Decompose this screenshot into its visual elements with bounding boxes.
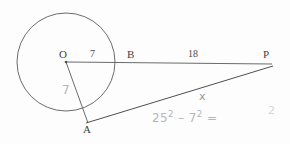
geometry-diagram-canvas: O B P A 7 18 7 x 252 – 72 = 2 (0, 0, 290, 144)
equation-equals: = (203, 111, 218, 125)
equation-base-2: 7 (189, 111, 197, 125)
point-label-o: O (59, 49, 67, 60)
point-o-dot (65, 61, 68, 64)
handwritten-equation: 252 – 72 = (152, 110, 217, 124)
stray-digit-mark: 2 (268, 105, 275, 116)
segment-label-bp: 18 (188, 49, 198, 59)
equation-base-1: 25 (152, 111, 168, 125)
point-label-a: A (83, 124, 91, 135)
segment-label-ob: 7 (90, 49, 95, 59)
segment-op-line (66, 62, 272, 64)
segment-label-ap: x (199, 91, 206, 102)
equation-minus: – (174, 111, 189, 125)
point-label-b: B (127, 49, 134, 60)
point-label-p: P (263, 49, 269, 60)
diagram-svg (0, 0, 290, 144)
segment-label-oa: 7 (62, 84, 70, 96)
